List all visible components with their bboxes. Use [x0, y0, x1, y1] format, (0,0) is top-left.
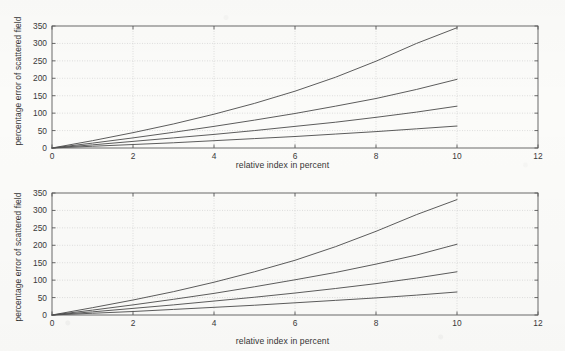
data-curve-curve-3	[52, 106, 457, 148]
data-curve-curve-2	[52, 79, 457, 148]
x-tick-label: 4	[212, 318, 217, 328]
chart-panel-bottom: 050100150200250300350024681012 percentag…	[0, 176, 565, 351]
y-tick-label: 150	[33, 91, 47, 101]
chart-panel-top: 050100150200250300350024681012 percentag…	[0, 0, 565, 175]
y-axis-label-top: percentage error of scattered field	[13, 1, 23, 161]
y-tick-label: 200	[33, 73, 47, 83]
x-tick-label: 0	[50, 318, 55, 328]
x-tick-label: 10	[452, 318, 462, 328]
y-tick-label: 300	[33, 38, 47, 48]
x-tick-label: 12	[533, 318, 543, 328]
x-axis-label-top: relative index in percent	[0, 160, 565, 170]
y-tick-label: 350	[33, 21, 47, 31]
y-tick-label: 150	[33, 258, 47, 268]
x-tick-label: 8	[374, 318, 379, 328]
y-tick-label: 100	[33, 275, 47, 285]
y-tick-label: 200	[33, 240, 47, 250]
y-tick-label: 50	[38, 126, 48, 136]
y-tick-label: 250	[33, 223, 47, 233]
x-tick-label: 6	[293, 318, 298, 328]
y-tick-label: 350	[33, 188, 47, 198]
y-tick-label: 250	[33, 56, 47, 66]
x-tick-label: 2	[131, 318, 136, 328]
data-curve-curve-3	[52, 272, 457, 315]
plot-frame	[52, 193, 538, 315]
plot-area-bottom: 050100150200250300350024681012	[0, 176, 565, 351]
x-axis-label-bottom: relative index in percent	[0, 336, 565, 346]
y-tick-label: 100	[33, 108, 47, 118]
y-tick-label: 0	[42, 310, 47, 320]
plot-area-top: 050100150200250300350024681012	[0, 0, 565, 175]
y-tick-label: 50	[38, 293, 48, 303]
y-tick-label: 0	[42, 143, 47, 153]
y-axis-label-bottom: percentage error of scattered field	[13, 177, 23, 337]
y-tick-label: 300	[33, 205, 47, 215]
data-curve-curve-2	[52, 244, 457, 315]
